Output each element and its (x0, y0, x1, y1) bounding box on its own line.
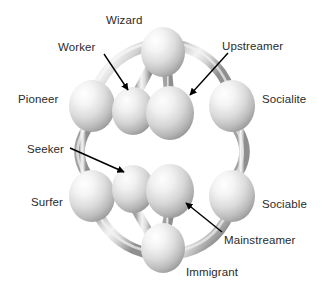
node-pioneer[interactable] (69, 80, 115, 132)
diagram-canvas: Wizard Worker Upstreamer Pioneer Sociali… (0, 0, 330, 290)
label-immigrant: Immigrant (186, 266, 238, 279)
node-immigrant[interactable] (141, 223, 185, 273)
node-upstreamer[interactable] (146, 86, 194, 140)
label-sociable: Sociable (262, 198, 307, 211)
label-socialite: Socialite (262, 93, 306, 106)
node-surfer[interactable] (69, 170, 115, 222)
node-socialite[interactable] (209, 80, 255, 132)
label-seeker: Seeker (27, 143, 64, 156)
label-worker: Worker (58, 41, 95, 54)
label-mainstreamer: Mainstreamer (224, 234, 296, 247)
label-pioneer: Pioneer (18, 93, 58, 106)
node-sociable[interactable] (209, 170, 255, 222)
label-wizard: Wizard (106, 14, 142, 27)
node-mainstreamer[interactable] (146, 164, 194, 218)
label-upstreamer: Upstreamer (222, 40, 283, 53)
label-surfer: Surfer (31, 196, 63, 209)
node-wizard[interactable] (141, 27, 185, 77)
